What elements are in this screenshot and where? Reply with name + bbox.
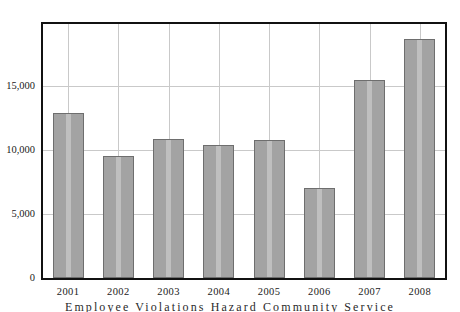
bar-highlight xyxy=(417,40,422,277)
x-axis-tick-label: 2005 xyxy=(244,286,294,297)
bar xyxy=(53,113,84,278)
x-axis-tick-label: 2006 xyxy=(294,286,344,297)
y-axis-tick-label: 0 xyxy=(0,273,35,283)
bar xyxy=(254,140,285,278)
bar-highlight xyxy=(66,114,71,277)
x-axis-tick-label: 2007 xyxy=(345,286,395,297)
bar xyxy=(103,156,134,278)
x-axis-tick-label: 2002 xyxy=(93,286,143,297)
y-axis-tick-label: 15,000 xyxy=(0,81,35,91)
x-axis-tick-label: 2004 xyxy=(194,286,244,297)
bar-highlight xyxy=(317,189,322,277)
y-axis-tick-label: 5,000 xyxy=(0,209,35,219)
bar-highlight xyxy=(116,157,121,277)
bar xyxy=(404,39,435,278)
bar-highlight xyxy=(166,140,171,277)
y-axis-tick-label: 10,000 xyxy=(0,145,35,155)
x-axis-tick-label: 2001 xyxy=(43,286,93,297)
bar xyxy=(153,139,184,278)
bar-highlight xyxy=(267,141,272,277)
bar-highlight xyxy=(367,81,372,277)
x-axis-tick-label: 2003 xyxy=(144,286,194,297)
bar xyxy=(203,145,234,278)
bar xyxy=(304,188,335,278)
bar xyxy=(354,80,385,278)
chart-caption: Employee Violations Hazard Community Ser… xyxy=(0,301,460,312)
x-axis-tick-label: 2008 xyxy=(395,286,445,297)
bar-chart: 05,00010,00015,000 200120022003200420052… xyxy=(0,0,460,312)
plot-area xyxy=(41,22,447,280)
bar-highlight xyxy=(216,146,221,277)
